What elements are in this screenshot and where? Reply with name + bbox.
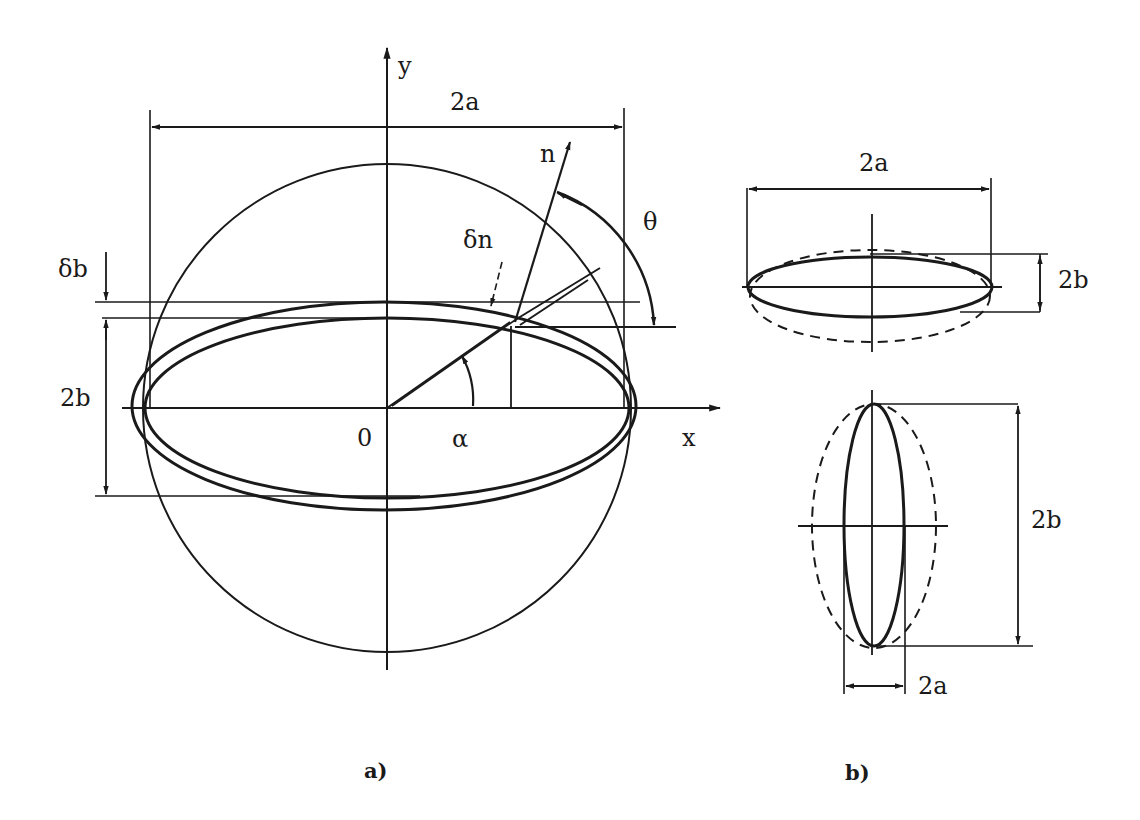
dimension-2a-label: 2a bbox=[859, 149, 889, 177]
normal-vector-n bbox=[515, 142, 570, 322]
x-axis-label: x bbox=[682, 424, 696, 452]
radius-line bbox=[387, 322, 510, 408]
panel-a: y 2a n θ δn δb 2b 0 α x a) bbox=[58, 48, 720, 783]
panel-b-bottom: 2b 2a bbox=[798, 390, 1062, 700]
dimension-2a-label: 2a bbox=[918, 672, 948, 700]
theta-arc bbox=[557, 192, 654, 325]
outer-ellipse bbox=[132, 302, 636, 510]
alpha-label: α bbox=[452, 425, 468, 453]
dimension-2b-label: 2b bbox=[1058, 266, 1089, 294]
normal-ray-1 bbox=[515, 268, 600, 320]
elongated-ellipse bbox=[844, 404, 904, 646]
theta-arc-start-arrow bbox=[558, 193, 582, 205]
panel-b-top: 2a 2b bbox=[742, 149, 1089, 352]
delta-b-label: δb bbox=[58, 255, 88, 283]
dimension-2b-label: 2b bbox=[60, 384, 91, 412]
dimension-2a-label: 2a bbox=[450, 88, 480, 116]
normal-n-label: n bbox=[540, 140, 555, 168]
origin-label: 0 bbox=[357, 424, 372, 452]
figure-canvas: y 2a n θ δn δb 2b 0 α x a) 2a 2b bbox=[0, 0, 1140, 820]
dimension-2b-label: 2b bbox=[1031, 506, 1062, 534]
y-axis-label: y bbox=[397, 52, 412, 80]
alpha-arc bbox=[462, 356, 473, 406]
panel-b-caption: b) bbox=[845, 760, 870, 785]
panel-a-caption: a) bbox=[364, 758, 388, 783]
theta-label: θ bbox=[643, 208, 657, 236]
radius-line-offset bbox=[392, 318, 518, 406]
delta-n-pointer bbox=[491, 262, 502, 306]
delta-n-label: δn bbox=[463, 226, 493, 254]
